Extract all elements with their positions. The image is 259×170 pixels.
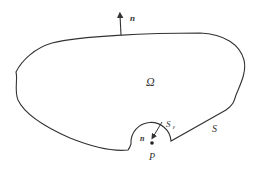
boundary-label-s: S [212, 123, 217, 134]
inner-normal-arrow [153, 122, 162, 137]
point-label-p: P [148, 151, 155, 162]
outer-normal-arrow [120, 15, 121, 35]
outer-normal-label: n [130, 13, 135, 23]
inner-normal-label: n [140, 134, 145, 143]
small-boundary-label-main: S [166, 119, 171, 129]
boundary-curve-s [16, 33, 245, 150]
small-boundary-label-sub: ε [173, 124, 176, 130]
domain-label-omega: Ω [146, 75, 155, 89]
boundary-diagram: n Ω S ε S n P [0, 0, 259, 170]
small-boundary-label: S ε [166, 119, 176, 130]
point-p-marker [150, 141, 154, 145]
